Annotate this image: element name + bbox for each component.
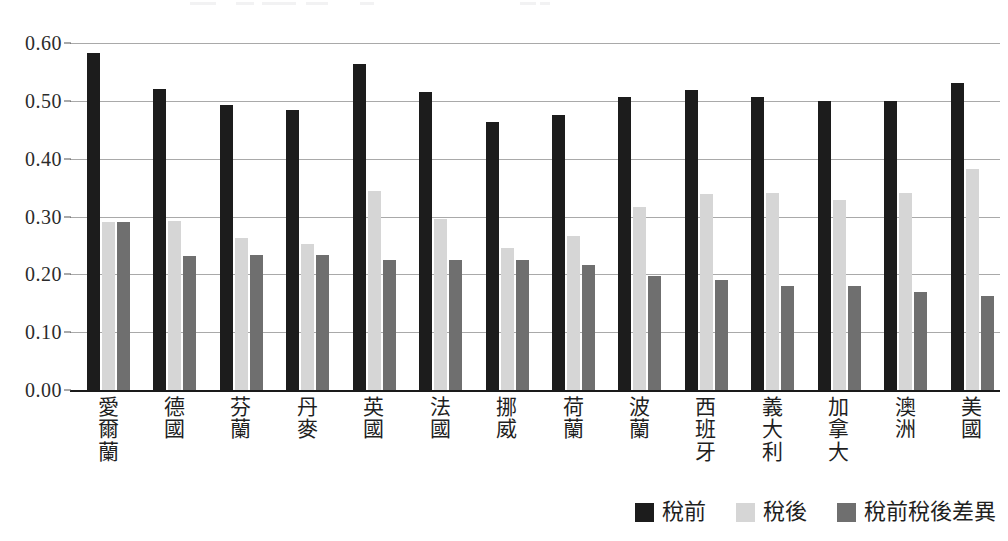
x-axis-label-glyph: 爾 — [86, 418, 130, 440]
bar — [434, 219, 447, 390]
x-axis-labels: 愛爾蘭德國芬蘭丹麥英國法國挪威荷蘭波蘭西班牙義大利加拿大澳洲美國 — [70, 396, 1000, 488]
bar — [419, 92, 432, 390]
x-axis-line — [70, 390, 1000, 392]
scan-speck — [190, 2, 216, 5]
bar-group — [419, 43, 462, 390]
x-axis-label-glyph: 西 — [684, 396, 728, 418]
chart-legend: 稅前稅後稅前稅後差異 — [0, 492, 1008, 532]
bar — [899, 193, 912, 390]
y-axis-tick-mark — [64, 43, 71, 44]
x-axis-tick-label: 荷蘭 — [551, 396, 595, 441]
x-axis-label-glyph: 加 — [817, 396, 861, 418]
x-axis-label-glyph: 蘭 — [219, 418, 263, 440]
legend-label: 稅前稅後差異 — [864, 501, 996, 523]
bar — [486, 122, 499, 390]
bar — [552, 115, 565, 390]
x-axis-tick-label: 挪威 — [485, 396, 529, 441]
y-axis-tick-mark — [64, 274, 71, 275]
x-axis-tick-label: 英國 — [352, 396, 396, 441]
bar — [715, 280, 728, 390]
bar — [648, 276, 661, 391]
bar — [618, 97, 631, 390]
bar-group — [685, 43, 728, 390]
bar — [286, 110, 299, 390]
x-axis-label-glyph: 法 — [418, 396, 462, 418]
y-axis-tick-label: 0.40 — [0, 149, 62, 169]
legend-item[interactable]: 稅前稅後差異 — [837, 501, 996, 523]
bar-group — [618, 43, 661, 390]
bar — [818, 101, 831, 390]
bar-group — [751, 43, 794, 390]
bar — [235, 238, 248, 390]
x-axis-label-glyph: 班 — [684, 418, 728, 440]
x-axis-label-glyph: 丹 — [285, 396, 329, 418]
bar — [582, 265, 595, 390]
x-axis-label-glyph: 德 — [152, 396, 196, 418]
x-axis-tick-label: 德國 — [152, 396, 196, 441]
y-axis-tick-mark — [64, 158, 71, 159]
bar-group — [818, 43, 861, 390]
bar — [449, 260, 462, 390]
x-axis-label-glyph: 國 — [950, 418, 994, 440]
bar — [183, 256, 196, 390]
x-axis-label-glyph: 大 — [817, 441, 861, 463]
bar-group — [951, 43, 994, 390]
scan-speck — [540, 2, 550, 5]
bar-group — [884, 43, 927, 390]
bar-group — [552, 43, 595, 390]
x-axis-label-glyph: 威 — [485, 418, 529, 440]
bar — [781, 286, 794, 390]
x-axis-label-glyph: 洲 — [883, 418, 927, 440]
x-axis-label-glyph: 英 — [352, 396, 396, 418]
bar — [353, 64, 366, 390]
x-axis-tick-label: 澳洲 — [883, 396, 927, 441]
x-axis-label-glyph: 芬 — [219, 396, 263, 418]
bar — [751, 97, 764, 390]
x-axis-tick-label: 法國 — [418, 396, 462, 441]
y-axis-tick-label: 0.30 — [0, 207, 62, 227]
bar — [685, 90, 698, 390]
bar-group — [87, 43, 130, 390]
bar — [633, 207, 646, 390]
bar — [117, 222, 130, 390]
bar — [383, 260, 396, 390]
scan-speck — [360, 2, 374, 5]
scan-speck — [520, 2, 536, 5]
x-axis-tick-label: 波蘭 — [617, 396, 661, 441]
bar — [168, 221, 181, 390]
bar — [301, 244, 314, 390]
legend-swatch-icon — [837, 503, 856, 522]
bar — [981, 296, 994, 390]
x-axis-label-glyph: 愛 — [86, 396, 130, 418]
bar — [884, 101, 897, 390]
y-axis-tick-label: 0.10 — [0, 322, 62, 342]
bar-group — [486, 43, 529, 390]
y-axis-tick-label: 0.20 — [0, 264, 62, 284]
bar — [153, 89, 166, 390]
x-axis-tick-label: 義大利 — [750, 396, 794, 463]
bar-group — [286, 43, 329, 390]
bar — [220, 105, 233, 390]
bar — [250, 255, 263, 390]
x-axis-tick-label: 丹麥 — [285, 396, 329, 441]
bar-chart: 0.600.500.400.300.200.100.00 愛爾蘭德國芬蘭丹麥英國… — [0, 0, 1008, 541]
legend-item[interactable]: 稅前 — [635, 501, 706, 523]
bar-group — [353, 43, 396, 390]
bar — [368, 191, 381, 390]
x-axis-label-glyph: 麥 — [285, 418, 329, 440]
scan-speck — [306, 2, 328, 5]
y-axis-tick-mark — [64, 100, 71, 101]
x-axis-label-glyph: 美 — [950, 396, 994, 418]
x-axis-label-glyph: 牙 — [684, 441, 728, 463]
bar — [951, 83, 964, 390]
bar — [766, 193, 779, 390]
y-axis-tick-mark — [64, 332, 71, 333]
y-axis-tick-label: 0.60 — [0, 33, 62, 53]
bar — [567, 236, 580, 390]
legend-swatch-icon — [635, 503, 654, 522]
x-axis-label-glyph: 利 — [750, 441, 794, 463]
y-axis-tick-mark — [64, 390, 71, 391]
bar — [87, 53, 100, 390]
x-axis-tick-label: 加拿大 — [817, 396, 861, 463]
legend-item[interactable]: 稅後 — [736, 501, 807, 523]
